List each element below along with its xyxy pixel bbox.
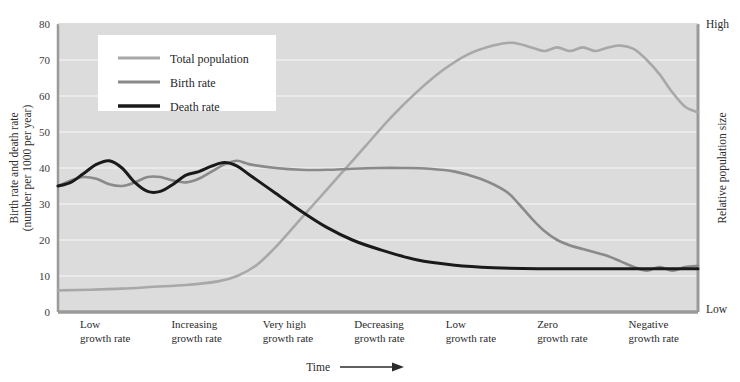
stage-label-line1: Negative [629, 318, 669, 330]
stage-label-line2: growth rate [171, 332, 222, 344]
demographic-transition-figure: 01020304050607080 Birth rate and death r… [0, 0, 740, 382]
y-tick-10: 10 [39, 270, 51, 282]
y-tick-30: 30 [39, 198, 51, 210]
legend-label-total_population: Total population [170, 52, 249, 66]
legend: Total populationBirth rateDeath rate [98, 35, 276, 114]
y-axis-title-line2: (number per 1000 per year) [21, 105, 34, 232]
y-axis-tick-labels: 01020304050607080 [39, 18, 51, 318]
y-tick-20: 20 [39, 234, 51, 246]
stage-label-line2: growth rate [629, 332, 680, 344]
stage-label-line1: Decreasing [354, 318, 404, 330]
y-axis-title-line1: Birth rate and death rate [8, 112, 20, 223]
legend-label-death_rate: Death rate [170, 100, 220, 114]
stage-label-line2: growth rate [354, 332, 405, 344]
legend-label-birth_rate: Birth rate [170, 76, 216, 90]
y-tick-50: 50 [39, 126, 51, 138]
y-tick-60: 60 [39, 90, 51, 102]
chart-svg: 01020304050607080 Birth rate and death r… [0, 0, 740, 382]
y-tick-70: 70 [39, 54, 51, 66]
y-tick-0: 0 [45, 306, 51, 318]
y2-high-label: High [706, 18, 729, 31]
stage-label-line2: growth rate [446, 332, 497, 344]
y2-axis-title: Relative population size [716, 112, 729, 223]
y-tick-40: 40 [39, 162, 51, 174]
stage-label-line2: growth rate [263, 332, 314, 344]
y2-low-label: Low [706, 303, 728, 315]
stage-label-line1: Low [80, 318, 100, 330]
stage-label-line1: Very high [263, 318, 307, 330]
stage-label-line2: growth rate [80, 332, 131, 344]
stage-label-line2: growth rate [537, 332, 588, 344]
time-label-text: Time [306, 361, 330, 373]
stage-label-line1: Increasing [171, 318, 217, 330]
stage-label-line1: Zero [537, 318, 558, 330]
y-tick-80: 80 [39, 18, 51, 30]
y-axis-title: Birth rate and death rate (number per 10… [8, 105, 34, 232]
stage-label-line1: Low [446, 318, 466, 330]
